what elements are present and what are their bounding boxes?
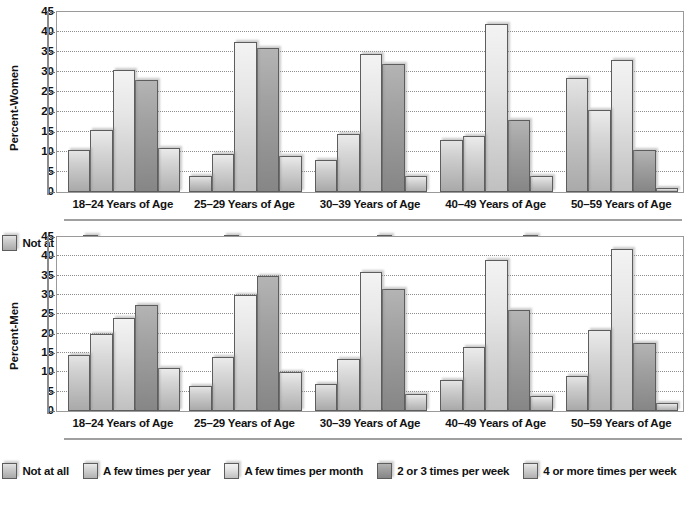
y-axis-tickmark [50,192,55,193]
y-axis-tickmark [50,172,55,173]
legend-label: A few times per month [244,465,363,477]
legend-label: A few times per year [103,465,210,477]
bar [463,136,486,192]
bar [566,78,589,192]
bar [485,260,508,411]
x-axis-group-label: 40–49 Years of Age [445,198,546,210]
legend-item[interactable]: 2 or 3 times per week [377,463,509,479]
legend-swatch-icon [2,463,17,479]
bar [113,70,136,192]
gridline [57,236,683,237]
legend-label: 4 or more times per week [543,465,676,477]
bar [508,120,531,192]
bar [158,368,181,411]
y-axis-tickmark [50,392,55,393]
x-axis-group-label: 30–39 Years of Age [320,198,421,210]
bar [315,384,338,411]
plot-area-men [56,236,684,412]
x-axis-group-label: 30–39 Years of Age [320,417,421,429]
bar [189,386,212,411]
bar [382,64,405,192]
bar [212,154,235,192]
y-axis-tickmark [50,334,55,335]
bar [656,188,679,192]
chart-panel-men: Percent-Men 051015202530354045 18–24 Yea… [0,228,693,456]
y-axis-tickmark [50,52,55,53]
bar [279,372,302,411]
y-axis-tickmark [50,152,55,153]
bar [360,54,383,192]
bar [337,359,360,411]
plot-area-women [56,11,684,193]
legend-item[interactable]: A few times per year [83,463,210,479]
bar [257,276,280,411]
bar [158,148,181,192]
legend-item[interactable]: 4 or more times per week [523,463,676,479]
bar [440,140,463,192]
bar [90,334,113,411]
y-axis-tickmark [50,276,55,277]
gridline [57,11,683,12]
bar [113,318,136,411]
y-axis-ticklabels-women: 051015202530354045 [26,0,54,228]
bar [588,110,611,192]
bar [90,130,113,192]
y-axis-tickmark [50,314,55,315]
bar [135,305,158,411]
legend-label: 2 or 3 times per week [397,465,509,477]
y-axis-title-men: Percent-Men [8,236,24,436]
gridline [57,31,683,32]
y-axis-tickmark [50,92,55,93]
y-axis-spine-women [47,11,49,195]
x-axis-group-label: 25–29 Years of Age [194,198,295,210]
bar [405,394,428,411]
bar [633,150,656,192]
y-axis-tickmark [50,112,55,113]
bar [212,357,235,411]
legend-item[interactable]: Not at all [2,463,69,479]
legend-swatch-icon [377,463,392,479]
y-axis-spine-men [47,236,49,414]
panel-divider-women [64,219,682,221]
chart-panel-women: Percent-Women 051015202530354045 18–24 Y… [0,0,693,228]
bar [440,380,463,411]
bar [633,343,656,411]
y-axis-tickmark [50,132,55,133]
panel-divider-men [64,438,682,440]
y-axis-tickmark [50,411,55,412]
y-axis-title-women-wrap: Percent-Women [8,8,24,208]
y-axis-tickmark [50,237,55,238]
legend-swatch-icon [83,463,98,479]
y-axis-tickmark [50,372,55,373]
legend-swatch-icon [523,463,538,479]
bar [257,48,280,192]
y-axis-ticklabels-men: 051015202530354045 [26,228,54,456]
bar [360,272,383,411]
legend-men: Not at allA few times per yearA few time… [0,456,693,486]
bar [530,176,553,192]
x-axis-group-label: 50–59 Years of Age [571,198,672,210]
y-axis-tickmark [50,256,55,257]
legend-item[interactable]: A few times per month [224,463,363,479]
y-axis-tickmark [50,72,55,73]
bar [68,150,91,192]
bar [611,249,634,411]
legend-label: Not at all [22,465,69,477]
y-axis-tickmark [50,32,55,33]
bar [566,376,589,411]
bar [463,347,486,411]
bar [611,60,634,192]
y-axis-tickmark [50,353,55,354]
x-axis-group-label: 40–49 Years of Age [445,417,546,429]
y-axis-title-men-wrap: Percent-Men [8,236,24,436]
bar [279,156,302,192]
bar [189,176,212,192]
x-axis-group-label: 50–59 Years of Age [571,417,672,429]
bar [485,24,508,192]
bar [508,310,531,411]
bar [135,80,158,192]
y-axis-tickmark [50,12,55,13]
bar [382,289,405,411]
x-axis-group-label: 18–24 Years of Age [72,198,173,210]
x-axis-grouplabels-women: 18–24 Years of Age25–29 Years of Age30–3… [56,198,684,214]
